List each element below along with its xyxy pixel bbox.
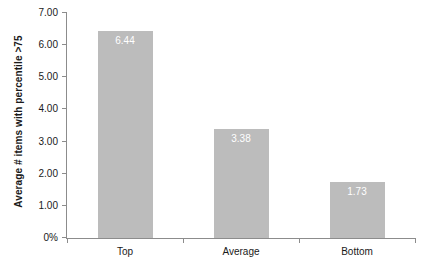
bar-value-label: 1.73 <box>330 186 385 198</box>
y-axis-tick-label: 5.00 <box>39 71 58 83</box>
x-axis-start-cap <box>67 238 68 243</box>
y-axis-tick-label: 1.00 <box>39 200 58 212</box>
x-axis-line <box>66 238 415 239</box>
bar-value-label: 6.44 <box>98 35 153 47</box>
x-axis-tick-mark <box>299 238 300 243</box>
y-axis-tick: 2.00 <box>0 168 67 180</box>
bar-value-label: 3.38 <box>214 133 269 145</box>
x-axis-label-bottom: Bottom <box>299 246 415 257</box>
y-axis-tick: 0% <box>0 232 67 244</box>
y-axis-tick-mark <box>62 76 67 77</box>
x-axis-end-cap <box>415 238 416 243</box>
y-axis-tick-label: 3.00 <box>39 136 58 148</box>
y-axis-tick-label: 2.00 <box>39 168 58 180</box>
y-axis-tick-label: 0% <box>44 232 58 244</box>
bar-chart: Average # items with percentile >75 0%1.… <box>0 0 426 273</box>
x-axis-tick-mark <box>183 238 184 243</box>
y-axis-tick-label: 4.00 <box>39 103 58 115</box>
y-axis-tick-mark <box>62 205 67 206</box>
y-axis-tick: 5.00 <box>0 71 67 83</box>
y-axis-tick: 6.00 <box>0 39 67 51</box>
bar-bottom: 1.73 <box>330 182 385 238</box>
y-axis-tick-mark <box>62 44 67 45</box>
y-axis-tick: 7.00 <box>0 7 67 19</box>
x-axis-label-top: Top <box>67 246 183 257</box>
y-axis-tick-mark <box>62 108 67 109</box>
y-axis-tick-mark <box>62 173 67 174</box>
y-axis-tick: 4.00 <box>0 103 67 115</box>
y-axis-tick: 3.00 <box>0 136 67 148</box>
y-axis-tick-mark <box>62 141 67 142</box>
x-axis-label-average: Average <box>183 246 299 257</box>
y-axis-tick-label: 7.00 <box>39 7 58 19</box>
bar-top: 6.44 <box>98 31 153 238</box>
y-axis-tick-mark <box>62 12 67 13</box>
y-axis-tick-label: 6.00 <box>39 39 58 51</box>
bar-average: 3.38 <box>214 129 269 238</box>
y-axis-tick: 1.00 <box>0 200 67 212</box>
